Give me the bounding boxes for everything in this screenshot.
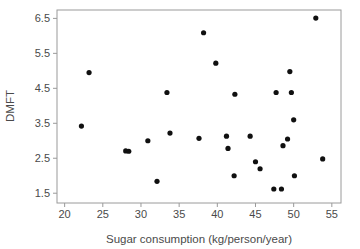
y-axis-title: DMFT	[4, 90, 16, 122]
scatter-point	[287, 69, 292, 74]
y-tick-label: 5.5	[35, 47, 50, 59]
scatter-point	[253, 159, 258, 164]
scatter-point	[285, 136, 290, 141]
x-tick-label: 55	[326, 208, 338, 220]
scatter-point	[79, 123, 84, 128]
chart-canvas: 2025303540455055 1.52.53.54.55.56.5 Suga…	[0, 0, 360, 249]
y-tick-label: 4.5	[35, 82, 50, 94]
scatter-point	[213, 61, 218, 66]
scatter-plot-figure: 2025303540455055 1.52.53.54.55.56.5 Suga…	[0, 0, 360, 249]
scatter-point	[145, 138, 150, 143]
scatter-point	[313, 15, 318, 20]
scatter-point	[126, 149, 131, 154]
scatter-point	[224, 134, 229, 139]
scatter-point	[257, 166, 262, 171]
scatter-point	[289, 90, 294, 95]
scatter-point	[232, 92, 237, 97]
x-tick-label: 20	[59, 208, 71, 220]
x-tick-label: 40	[211, 208, 223, 220]
scatter-point	[271, 186, 276, 191]
x-axis-title: Sugar consumption (kg/person/year)	[106, 233, 292, 245]
x-tick-label: 35	[173, 208, 185, 220]
x-tick-label: 30	[135, 208, 147, 220]
y-tick-label: 1.5	[35, 187, 50, 199]
y-tick-label: 3.5	[35, 117, 50, 129]
scatter-point	[292, 173, 297, 178]
scatter-point	[164, 90, 169, 95]
y-tick-label: 6.5	[35, 12, 50, 24]
scatter-point	[248, 134, 253, 139]
scatter-point	[280, 143, 285, 148]
scatter-point	[291, 117, 296, 122]
x-tick-label: 50	[288, 208, 300, 220]
scatter-point	[279, 186, 284, 191]
y-tick-label: 2.5	[35, 152, 50, 164]
x-tick-label: 45	[249, 208, 261, 220]
scatter-point	[225, 146, 230, 151]
scatter-point	[274, 90, 279, 95]
scatter-point	[320, 156, 325, 161]
scatter-point	[167, 130, 172, 135]
scatter-point	[232, 173, 237, 178]
scatter-point	[86, 70, 91, 75]
scatter-point	[154, 179, 159, 184]
scatter-point	[201, 30, 206, 35]
scatter-point	[196, 136, 201, 141]
x-tick-label: 25	[97, 208, 109, 220]
